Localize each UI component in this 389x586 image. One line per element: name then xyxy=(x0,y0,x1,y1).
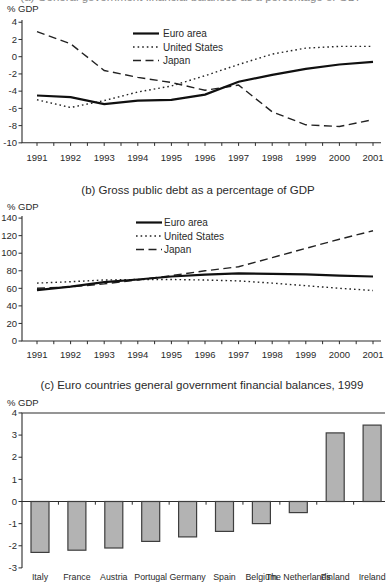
legend-label-japan: Japan xyxy=(164,244,191,255)
y-tick-label: -8 xyxy=(9,120,17,131)
y-tick-label: 120 xyxy=(1,230,17,241)
category-label-italy: Italy xyxy=(32,572,49,582)
x-tick-label: 1997 xyxy=(228,349,249,360)
y-axis-unit-label: % GDP xyxy=(7,397,39,408)
y-tick-label: 0 xyxy=(12,335,17,346)
legend-label-japan: Japan xyxy=(163,55,190,66)
x-tick-label: 2000 xyxy=(329,152,350,163)
y-tick-label: 140 xyxy=(1,212,17,223)
y-tick-label: 40 xyxy=(6,300,17,311)
category-label-ireland: Ireland xyxy=(359,572,386,582)
panel-a-series-euro-area xyxy=(37,62,373,104)
y-tick-label: -2 xyxy=(9,540,17,551)
panel-b-title: (b) Gross public debt as a percentage of… xyxy=(81,184,315,196)
category-label-germany: Germany xyxy=(170,572,207,582)
panel-a-clipped-title: (a) General government financial balance… xyxy=(20,0,364,3)
bar-belgium xyxy=(252,502,270,524)
y-tick-label: 20 xyxy=(6,318,17,329)
x-tick-label: 1998 xyxy=(262,349,283,360)
x-tick-label: 1991 xyxy=(26,349,47,360)
y-axis-unit-label: % GDP xyxy=(7,201,39,212)
y-tick-label: 2 xyxy=(12,451,17,462)
y-tick-label: 80 xyxy=(6,265,17,276)
legend-label-euro-area: Euro area xyxy=(163,28,207,39)
charts-canvas: (a) General government financial balance… xyxy=(0,0,389,586)
y-tick-label: 100 xyxy=(1,247,17,258)
panel-a-series-united-states xyxy=(37,46,373,107)
legend-label-united-states: United States xyxy=(163,42,223,53)
bar-finland xyxy=(326,433,344,502)
bar-ireland xyxy=(363,425,381,501)
bar-germany xyxy=(179,502,197,537)
bar-spain xyxy=(216,502,234,532)
y-tick-label: 0 xyxy=(12,51,17,62)
x-tick-label: 1993 xyxy=(94,349,115,360)
panel-c-title: (c) Euro countries general government fi… xyxy=(41,379,364,391)
bar-portugal xyxy=(142,502,160,542)
legend-label-euro-area: Euro area xyxy=(164,217,208,228)
bar-france xyxy=(68,502,86,551)
y-tick-label: -4 xyxy=(9,85,17,96)
y-tick-label: 3 xyxy=(12,429,17,440)
x-tick-label: 1991 xyxy=(26,152,47,163)
y-axis-unit-label: % GDP xyxy=(7,3,39,14)
x-tick-label: 1996 xyxy=(194,152,215,163)
y-tick-label: 0 xyxy=(12,496,17,507)
x-tick-label: 1994 xyxy=(127,349,148,360)
y-tick-label: 4 xyxy=(12,407,17,418)
y-tick-label: 4 xyxy=(12,16,17,27)
y-tick-label: 2 xyxy=(12,34,17,45)
category-label-spain: Spain xyxy=(213,572,236,582)
y-tick-label: 1 xyxy=(12,474,17,485)
x-tick-label: 1998 xyxy=(262,152,283,163)
bar-austria xyxy=(105,502,123,549)
x-tick-label: 2001 xyxy=(362,349,383,360)
y-tick-label: -10 xyxy=(3,137,17,148)
x-tick-label: 1995 xyxy=(161,349,182,360)
bar-the-netherlands xyxy=(289,502,307,513)
x-tick-label: 1992 xyxy=(60,349,81,360)
y-tick-label: -3 xyxy=(9,562,17,573)
y-tick-label: -1 xyxy=(9,518,17,529)
page: (a) General government financial balance… xyxy=(0,0,389,586)
category-label-portugal: Portugal xyxy=(134,572,167,582)
x-tick-label: 2000 xyxy=(329,349,350,360)
x-tick-label: 1992 xyxy=(60,152,81,163)
category-label-france: France xyxy=(63,572,90,582)
y-tick-label: 60 xyxy=(6,283,17,294)
bar-italy xyxy=(31,502,49,553)
x-tick-label: 1997 xyxy=(228,152,249,163)
category-label-finland: Finland xyxy=(321,572,350,582)
category-label-austria: Austria xyxy=(100,572,127,582)
x-tick-label: 1999 xyxy=(295,349,316,360)
x-tick-label: 1995 xyxy=(161,152,182,163)
x-tick-label: 1999 xyxy=(295,152,316,163)
x-tick-label: 1994 xyxy=(127,152,148,163)
x-tick-label: 1996 xyxy=(194,349,215,360)
y-tick-label: -6 xyxy=(9,103,17,114)
legend-label-united-states: United States xyxy=(164,231,224,242)
x-tick-label: 1993 xyxy=(94,152,115,163)
x-tick-label: 2001 xyxy=(362,152,383,163)
y-tick-label: -2 xyxy=(9,68,17,79)
